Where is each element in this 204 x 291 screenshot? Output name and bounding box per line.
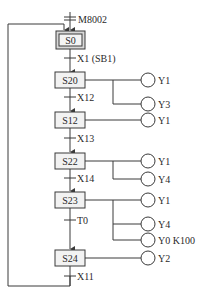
coil-icon-s22-y4 [141,172,155,186]
sfc-canvas: S0 S20 S12 S22 S23 S24 M8002 X1 (SB1) X1… [0,0,204,291]
transition-label-x13: X13 [77,133,94,144]
transition-label-x11: X11 [77,271,94,282]
transition-label-x1: X1 (SB1) [77,53,116,65]
transition-label-m8002: M8002 [78,14,107,25]
step-label-s22: S22 [62,156,78,167]
coil-icon-s20-y1 [141,73,155,87]
transition-label-x12: X12 [77,92,94,103]
step-label-s23: S23 [62,195,78,206]
coil-icon-s24-y2 [141,251,155,265]
output-label-s22-y1: Y1 [158,156,170,167]
output-link-s20-y3 [113,80,141,104]
coil-icon-s22-y1 [141,154,155,168]
coil-icon-s23-y1 [141,193,155,207]
output-link-s23-y0 [113,200,141,240]
output-label-s24-y2: Y2 [158,253,170,264]
coil-icon-s23-y4 [141,217,155,231]
transition-label-t0: T0 [77,215,88,226]
step-label-s20: S20 [62,75,78,86]
step-label-s0: S0 [65,35,76,46]
transition-label-x14: X14 [77,173,94,184]
coil-icon-s20-y3 [141,97,155,111]
output-label-s22-y4: Y4 [158,174,170,185]
coil-icon-s23-y0 [141,233,155,247]
output-label-s20-y1: Y1 [158,75,170,86]
output-label-s23-y0: Y0 K100 [158,235,195,246]
step-label-s12: S12 [62,115,78,126]
step-label-s24: S24 [62,253,78,264]
output-label-s23-y4: Y4 [158,219,170,230]
output-label-s23-y1: Y1 [158,195,170,206]
coil-icon-s12-y1 [141,113,155,127]
sfc-diagram: S0 S20 S12 S22 S23 S24 M8002 X1 (SB1) X1… [0,0,204,291]
output-link-s22-y4 [113,161,141,179]
output-label-s12-y1: Y1 [158,115,170,126]
output-label-s20-y3: Y3 [158,99,170,110]
